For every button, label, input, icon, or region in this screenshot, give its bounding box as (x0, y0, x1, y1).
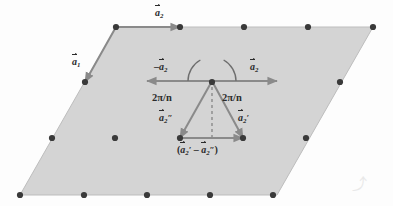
lattice-point (370, 24, 376, 30)
lattice-point (144, 192, 150, 198)
lattice-point (270, 192, 276, 198)
lattice-point (82, 79, 88, 85)
lattice-point (303, 135, 309, 141)
vector-label-a2-right: a2 (250, 62, 258, 74)
angle-label-right: 2π/n (222, 93, 242, 104)
vector-label-a2-top: a2 (155, 8, 163, 20)
lattice-point (113, 24, 119, 30)
vector-label-a1-left: a1 (72, 57, 80, 69)
lattice-point (177, 135, 183, 141)
lattice-point (17, 192, 23, 198)
lattice-point (49, 135, 55, 141)
vector-label-a2-prime: a2′ (238, 113, 249, 125)
lattice-point (81, 192, 87, 198)
lattice-point (207, 192, 213, 198)
vector-label-minus-a2: –a2 (154, 62, 167, 74)
lattice-point (240, 135, 246, 141)
vector-difference-label: (a2′ – a2″) (177, 145, 218, 157)
lattice-diagram-canvas (0, 0, 393, 206)
lattice-point (337, 79, 343, 85)
lattice-point (209, 79, 215, 85)
angle-label-left: 2π/n (152, 93, 172, 104)
lattice-point (112, 135, 118, 141)
scan-artifact-mark: ⤴ (352, 172, 367, 193)
lattice-point (241, 24, 247, 30)
lattice-diagram-figure: a2 a1 –a2 a2 a2″ a2′ 2π/n 2π/n (a2′ – a2… (0, 0, 393, 206)
parallelogram-lattice-cell (20, 27, 373, 195)
vector-label-a2-double-prime: a2″ (159, 113, 172, 125)
lattice-point (177, 24, 183, 30)
lattice-point (305, 24, 311, 30)
